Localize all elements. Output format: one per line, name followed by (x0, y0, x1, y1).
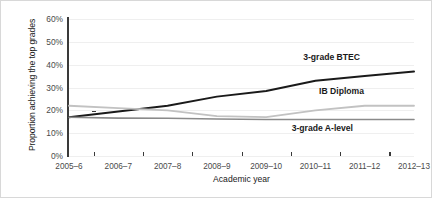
series-label: 3-grade A-level (292, 123, 353, 133)
x-tick-mark (389, 152, 390, 156)
x-tick-mark (291, 152, 292, 156)
x-tick-label: 2010–11 (300, 162, 331, 171)
x-tick-label: 2007–8 (154, 162, 181, 171)
y-tick-label: 50% (31, 37, 63, 47)
series-label: IB Diploma (319, 86, 364, 96)
x-tick-label: 2008–9 (203, 162, 230, 171)
y-tick-label: 60% (31, 14, 63, 24)
x-tick-mark (143, 152, 144, 156)
x-tick-mark (192, 152, 193, 156)
x-tick-mark (242, 152, 243, 156)
x-tick-label: 2009–10 (250, 162, 282, 171)
series-label: 3-grade BTEC (303, 52, 360, 62)
y-tick-label: 0% (31, 151, 63, 161)
x-axis-ticks: 2005–62006–72007–82008–92009–102010–1120… (69, 156, 414, 176)
x-tick-mark (94, 152, 95, 156)
x-axis-title: Academic year (69, 174, 414, 184)
y-tick-label: 30% (31, 83, 63, 93)
x-tick-label: 2012–13 (398, 162, 430, 171)
y-tick-label: 10% (31, 128, 63, 138)
series-line (69, 117, 414, 119)
x-tick-label: 2005–6 (55, 162, 82, 171)
y-tick-label: 20% (31, 105, 63, 115)
chart-figure: Proportion achieving the top grades 0%10… (0, 0, 432, 198)
x-tick-label: 2011–12 (349, 162, 380, 171)
x-tick-label: 2006–7 (105, 162, 132, 171)
y-tick-label: 40% (31, 60, 63, 70)
x-tick-mark (340, 152, 341, 156)
